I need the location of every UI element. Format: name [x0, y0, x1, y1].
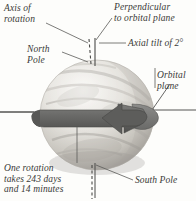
leader-axis-of-rotation: [46, 23, 88, 43]
venus-rotation-diagram: Axis of rotation Perpendicular to orbita…: [0, 0, 196, 201]
label-rotation-period: One rotation takes 243 days and 14 minut…: [4, 163, 63, 195]
label-axial-tilt: Axial tilt of 2°: [128, 38, 183, 49]
label-axis-of-rotation: Axis of rotation: [4, 3, 35, 24]
leader-perpendicular: [96, 18, 112, 40]
label-north-pole: North Pole: [27, 44, 50, 65]
label-perpendicular-to-orbital-plane: Perpendicular to orbital plane: [114, 2, 175, 23]
label-south-pole: South Pole: [135, 175, 177, 186]
leader-north-pole: [62, 52, 88, 62]
label-orbital-plane: Orbital plane: [157, 70, 186, 91]
